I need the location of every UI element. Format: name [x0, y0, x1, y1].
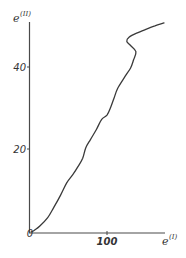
origin-label: 0 — [27, 228, 33, 239]
chart: 40 20 0 100 e (II) e (I) — [0, 0, 186, 258]
y-axis-label-base: e — [13, 12, 20, 25]
y-axis-label: e (II) — [13, 10, 31, 25]
data-curve — [31, 23, 164, 232]
x-axis-label-sup: (I) — [169, 233, 177, 241]
x-tick-label-100: 100 — [97, 236, 118, 247]
y-axis-label-sup: (II) — [20, 10, 31, 18]
x-axis-label-base: e — [162, 235, 169, 248]
axes — [27, 22, 165, 235]
x-axis-label: e (I) — [162, 233, 177, 248]
y-tick-label-40: 40 — [13, 62, 26, 73]
y-tick-label-20: 20 — [13, 144, 26, 155]
